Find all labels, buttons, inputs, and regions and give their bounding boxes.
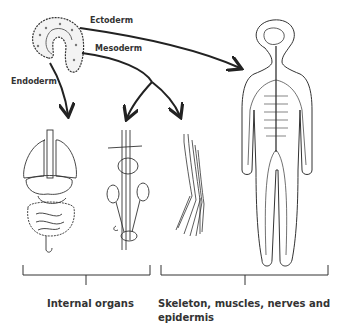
mesoderm-arrow: [82, 53, 152, 82]
mesoderm-arrow-right: [152, 82, 180, 116]
endoderm-arrow: [50, 63, 68, 115]
internal-organs-brace: [23, 265, 150, 285]
outer-tissues-caption-line1: Skeleton, muscles, nerves and: [158, 297, 330, 310]
urinary-circulatory-organs-illustration: [107, 130, 149, 250]
mesoderm-label: Mesoderm: [95, 44, 142, 53]
digestive-respiratory-organs-illustration: [24, 130, 77, 252]
endoderm-label: Endoderm: [11, 77, 57, 86]
arm-muscles-illustration: [176, 134, 204, 236]
internal-organs-caption: Internal organs: [47, 297, 134, 310]
outer-tissues-brace: [161, 265, 328, 285]
germ-layer-diagram: [0, 0, 341, 330]
ectoderm-label: Ectoderm: [90, 16, 133, 25]
mesoderm-arrow-left: [127, 82, 152, 118]
gastrula-embryo: [33, 18, 84, 73]
outer-tissues-caption-line2: epidermis: [158, 311, 214, 324]
nervous-system-figure: [242, 20, 312, 266]
